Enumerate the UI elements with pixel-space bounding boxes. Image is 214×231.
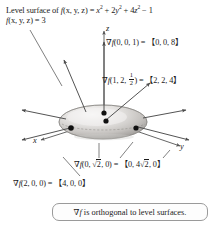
caption-text: ∇f is orthogonal to level surfaces. bbox=[74, 207, 187, 217]
level-surface-figure: Level surface of f(x, y, z) = x2 + 2y2 +… bbox=[0, 0, 214, 231]
radical-2: √2 bbox=[92, 160, 101, 169]
caption-box: ∇f is orthogonal to level surfaces. bbox=[52, 203, 208, 221]
title-line-1: Level surface of f(x, y, z) = x2 + 2y2 +… bbox=[6, 6, 153, 15]
gradient-label-0-0-1: ∇f(0, 0, 1) = 【0, 0, 8】 bbox=[106, 38, 183, 47]
gradient-label-2-0-0: ∇f(2, 0, 0) = 【4, 0, 0】 bbox=[13, 179, 90, 188]
axis-label-x: x bbox=[33, 136, 37, 145]
figure-background bbox=[0, 0, 214, 231]
gradient-label-1-2-half: ∇f(1, 2, 12) = 【2, 2, 4】 bbox=[102, 72, 181, 86]
axis-label-y: y bbox=[180, 142, 184, 151]
title-line-2: f(x, y, z) = 3 bbox=[6, 16, 153, 25]
figure-title: Level surface of f(x, y, z) = x2 + 2y2 +… bbox=[6, 6, 153, 26]
radical-2-vector: √2 bbox=[140, 160, 149, 169]
gradient-label-0-sqrt2-0: ∇f(0, √2, 0) = 【0, 4√2, 0】 bbox=[74, 160, 165, 169]
axis-label-z: z bbox=[106, 24, 109, 33]
